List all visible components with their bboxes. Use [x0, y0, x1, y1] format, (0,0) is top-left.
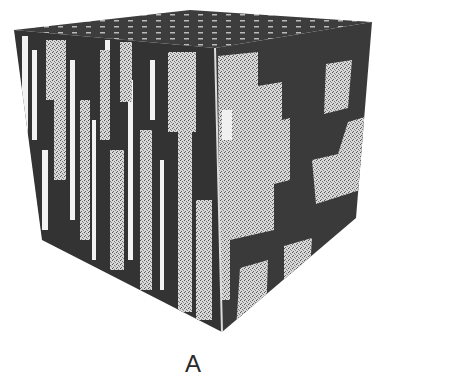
figure-label: A	[178, 350, 208, 378]
cube-illustration	[0, 0, 470, 386]
cube-left-face	[0, 0, 240, 340]
cube-figure	[0, 0, 470, 386]
cube-right-face	[200, 0, 400, 340]
